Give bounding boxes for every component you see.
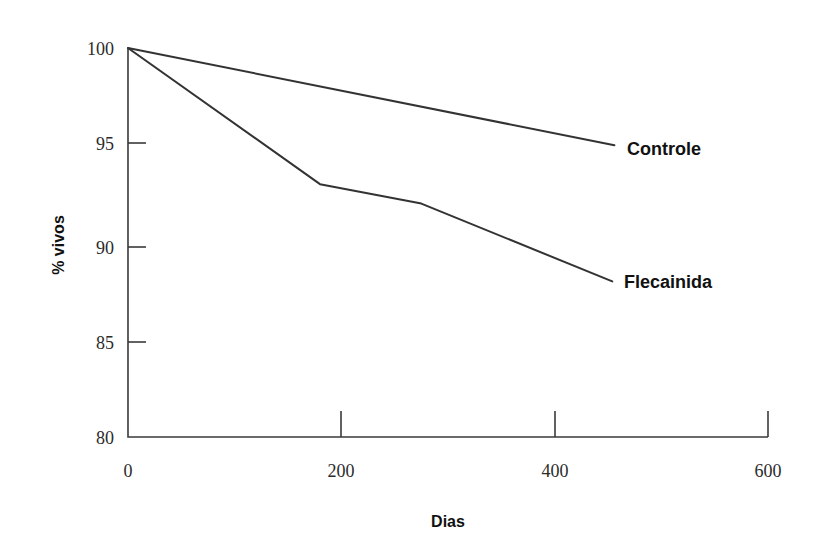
y-tick-label-90: 90 <box>96 238 114 258</box>
x-tick-label-0: 0 <box>124 461 133 481</box>
survival-curve-chart: 100 95 90 85 80 0 200 400 600 % vivos Di… <box>0 0 824 559</box>
x-tick-label-600: 600 <box>755 461 782 481</box>
x-tick-label-200: 200 <box>328 461 355 481</box>
y-tick-label-100: 100 <box>87 39 114 59</box>
y-tick-label-85: 85 <box>96 333 114 353</box>
series-label-controle: Controle <box>627 139 701 159</box>
y-tick-label-95: 95 <box>96 134 114 154</box>
y-axis-title: % vivos <box>50 215 67 275</box>
x-tick-label-400: 400 <box>542 461 569 481</box>
y-tick-label-80: 80 <box>96 428 114 448</box>
series-label-flecainida: Flecainida <box>624 272 713 292</box>
x-axis-title: Dias <box>431 513 465 530</box>
